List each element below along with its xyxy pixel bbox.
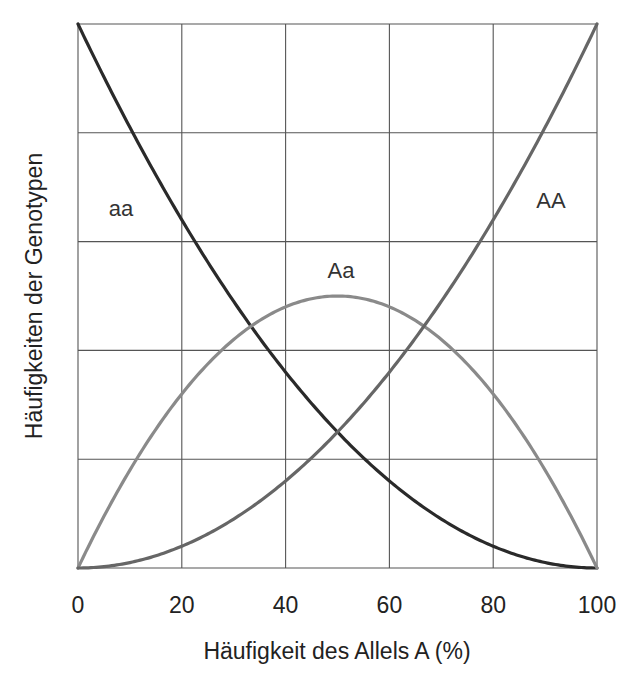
x-tick-label: 20 bbox=[169, 592, 195, 618]
x-tick-label: 100 bbox=[578, 592, 616, 618]
x-tick-label: 80 bbox=[480, 592, 506, 618]
curve-label-aa: aa bbox=[109, 196, 134, 221]
x-tick-label: 0 bbox=[72, 592, 85, 618]
x-axis-label: Häufigkeit des Allels A (%) bbox=[203, 638, 470, 664]
x-axis-ticks: 020406080100 bbox=[72, 592, 617, 618]
y-axis-label: Häufigkeiten der Genotypen bbox=[21, 153, 47, 439]
curve-label-AA: AA bbox=[536, 188, 566, 213]
curve-label-Aa: Aa bbox=[328, 258, 356, 283]
x-tick-label: 40 bbox=[273, 592, 299, 618]
genotype-frequency-chart: aaAaAA 020406080100 Häufigkeit des Allel… bbox=[0, 0, 640, 673]
plot-curves bbox=[78, 24, 597, 568]
curve-labels: aaAaAA bbox=[109, 188, 566, 283]
x-tick-label: 60 bbox=[377, 592, 403, 618]
